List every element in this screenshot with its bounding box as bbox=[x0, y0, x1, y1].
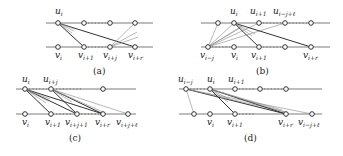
node bbox=[101, 87, 106, 92]
label-v-i: vi bbox=[231, 50, 238, 61]
label-u-i+1: ui+1 bbox=[228, 74, 245, 85]
node bbox=[108, 21, 113, 26]
figure-canvas: ui vi vi+1 vi+j vi+r (a) ui u bbox=[0, 0, 343, 156]
caption-b: (b) bbox=[256, 66, 269, 76]
label-u-i: ui bbox=[230, 6, 238, 17]
label-u-i: ui bbox=[207, 74, 215, 85]
label-v-i-j+l: vi−j+ℓ bbox=[298, 117, 320, 129]
label-v-i: vi bbox=[22, 117, 29, 128]
label-v-i+r: vi+r bbox=[95, 117, 111, 128]
node-u-i+j bbox=[49, 87, 54, 92]
label-u-i+j: ui+j bbox=[43, 74, 58, 86]
label-u-i-j+l: ui−j+ℓ bbox=[273, 6, 296, 18]
edge bbox=[208, 26, 242, 47]
node-u-i-j+l bbox=[283, 21, 288, 26]
node-v-i bbox=[56, 45, 61, 50]
caption-d: (d) bbox=[244, 133, 257, 143]
edge bbox=[58, 23, 135, 47]
node-v-i+j+l bbox=[126, 112, 131, 117]
node-v-i bbox=[23, 112, 28, 117]
node-v-i+1 bbox=[82, 45, 87, 50]
node-v-i+r bbox=[284, 112, 289, 117]
caption-a: (a) bbox=[93, 66, 105, 76]
node-v-i+1 bbox=[233, 112, 238, 117]
label-v-i+r: vi+r bbox=[278, 117, 294, 128]
node bbox=[216, 21, 221, 26]
node-v-i bbox=[208, 112, 213, 117]
node bbox=[283, 45, 288, 50]
node-u-i+1 bbox=[257, 21, 262, 26]
node bbox=[82, 21, 87, 26]
node-v-i+r bbox=[309, 45, 314, 50]
label-v-i: vi bbox=[55, 50, 62, 61]
edge bbox=[208, 23, 259, 47]
label-v-i+j+1: vi+j+1 bbox=[65, 117, 88, 129]
caption-c: (c) bbox=[69, 133, 81, 143]
node bbox=[309, 21, 314, 26]
label-v-i+1: vi+1 bbox=[45, 117, 61, 128]
label-u-i: ui bbox=[55, 6, 63, 17]
node bbox=[133, 21, 138, 26]
node-v-i bbox=[232, 45, 237, 50]
node bbox=[192, 112, 197, 117]
node-u-i bbox=[232, 21, 237, 26]
panel-b: ui ui+1 ui−j+ℓ vi−j vi vi+1 vi+r (b) bbox=[200, 6, 330, 76]
node bbox=[284, 87, 289, 92]
label-v-i+1: vi+1 bbox=[78, 50, 94, 61]
edge bbox=[186, 89, 194, 114]
panel-a: ui vi vi+1 vi+j vi+r (a) bbox=[46, 6, 153, 76]
label-v-i+1: vi+1 bbox=[227, 117, 243, 128]
node-v-i+1 bbox=[257, 45, 262, 50]
panel-c: ui ui+j vi vi+1 vi+j+1 vi+r vi+j+ℓ (c) bbox=[16, 74, 138, 143]
label-v-i: vi bbox=[207, 117, 214, 128]
node-u-i bbox=[23, 87, 28, 92]
label-u-i: ui bbox=[22, 74, 30, 85]
node-u-i bbox=[56, 21, 61, 26]
node-v-i+r bbox=[101, 112, 106, 117]
edge bbox=[208, 23, 234, 47]
node-v-i+1 bbox=[49, 112, 54, 117]
label-v-i+j: vi+j bbox=[103, 50, 117, 62]
edge bbox=[51, 89, 77, 114]
node-u-i-j bbox=[184, 87, 189, 92]
node-v-i-j+l bbox=[310, 112, 315, 117]
node-v-i+j bbox=[108, 45, 113, 50]
node-v-i+r bbox=[133, 45, 138, 50]
node-v-i-j bbox=[206, 45, 211, 50]
label-v-i+r: vi+r bbox=[128, 50, 144, 61]
node-u-i+1 bbox=[233, 87, 238, 92]
panel-d: ui−j ui ui+1 vi vi+1 vi+r vi−j+ℓ (d) bbox=[178, 74, 322, 143]
node bbox=[258, 87, 263, 92]
label-u-i-j: ui−j bbox=[178, 74, 193, 86]
edge bbox=[208, 23, 218, 47]
node-u-i bbox=[208, 87, 213, 92]
label-v-i-j: vi−j bbox=[200, 50, 214, 62]
label-v-i+1: vi+1 bbox=[251, 50, 267, 61]
label-u-i+1: ui+1 bbox=[250, 6, 267, 17]
edge bbox=[51, 89, 72, 102]
label-v-i+r: vi+r bbox=[303, 50, 319, 61]
label-v-i+j+l: vi+j+ℓ bbox=[116, 117, 138, 129]
node-v-i+j+1 bbox=[75, 112, 80, 117]
